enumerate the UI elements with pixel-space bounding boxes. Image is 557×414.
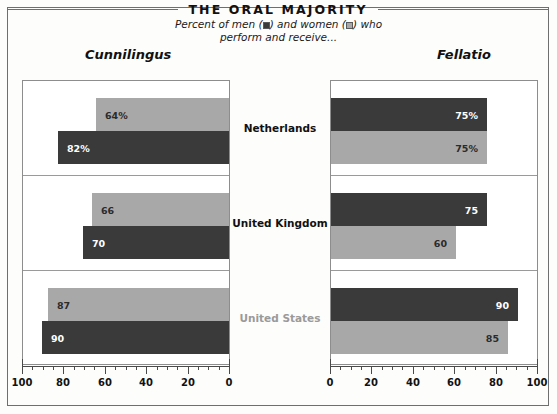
axis-ticklabel-fellatio-20: 20 bbox=[364, 377, 378, 388]
axis-cunnilingus bbox=[22, 366, 230, 374]
axis-ticklabel-fellatio-80: 80 bbox=[489, 377, 503, 388]
axis-tick bbox=[146, 366, 147, 374]
bar-label-men-netherlands: 75% bbox=[455, 109, 478, 120]
subtitle-text-after: ) who bbox=[353, 18, 382, 30]
axis-tick bbox=[413, 366, 414, 374]
subtitle-legend: Percent of men () and women () who perfo… bbox=[0, 18, 557, 44]
bar-label-men-united-states: 90 bbox=[51, 332, 64, 343]
axis-ticklabel-cunnilingus-40: 40 bbox=[139, 377, 153, 388]
axis-tick bbox=[177, 366, 178, 370]
axis-tick bbox=[167, 366, 168, 370]
axis-tick bbox=[371, 366, 372, 374]
axis-tick bbox=[340, 366, 341, 370]
bar-men-united-kingdom: 70 bbox=[83, 226, 229, 259]
subtitle-text-before-men: Percent of men ( bbox=[175, 18, 263, 30]
axis-tick bbox=[423, 366, 424, 370]
bar-men-united-states: 90 bbox=[331, 288, 518, 321]
axis-tick bbox=[157, 366, 158, 370]
axis-cap-start bbox=[330, 359, 331, 366]
axis-cap-end bbox=[537, 359, 538, 366]
panel-heading-fellatio: Fellatio bbox=[437, 47, 491, 62]
bar-label-men-netherlands: 82% bbox=[67, 142, 90, 153]
subtitle-line-1: Percent of men () and women () who bbox=[0, 18, 557, 31]
legend-men-swatch-icon bbox=[263, 22, 270, 29]
axis-tick bbox=[516, 366, 517, 370]
bar-label-women-netherlands: 64% bbox=[105, 109, 128, 120]
row-divider-1 bbox=[23, 175, 229, 176]
axis-tick bbox=[496, 366, 497, 374]
axis-tick bbox=[465, 366, 466, 370]
country-label-united-states: United States bbox=[232, 312, 328, 324]
axis-tick bbox=[22, 366, 23, 374]
row-divider-2 bbox=[23, 270, 229, 271]
axis-tick bbox=[537, 366, 538, 374]
bar-label-women-united-kingdom: 66 bbox=[101, 204, 114, 215]
axis-tick bbox=[444, 366, 445, 370]
bar-men-united-kingdom: 75 bbox=[331, 193, 487, 226]
axis-tick bbox=[506, 366, 507, 370]
title-band: THE ORAL MAJORITY bbox=[7, 0, 549, 18]
axis-tick bbox=[485, 366, 486, 370]
subtitle-text-mid: ) and women ( bbox=[270, 18, 346, 30]
axis-ticklabel-cunnilingus-80: 80 bbox=[56, 377, 70, 388]
axis-tick bbox=[527, 366, 528, 370]
axis-cap-end bbox=[229, 359, 230, 366]
axis-tick bbox=[382, 366, 383, 370]
plot-area-fellatio: 75% 75% 75 60 90 85 bbox=[330, 80, 538, 365]
axis-tick bbox=[94, 366, 95, 370]
axis-tick bbox=[115, 366, 116, 370]
axis-tick bbox=[32, 366, 33, 370]
axis-tick bbox=[219, 366, 220, 370]
bar-women-united-kingdom: 60 bbox=[331, 226, 456, 259]
axis-tick bbox=[351, 366, 352, 370]
bar-women-united-states: 87 bbox=[48, 288, 229, 321]
axis-ticklabel-fellatio-40: 40 bbox=[406, 377, 420, 388]
axis-fellatio bbox=[330, 366, 538, 374]
axis-tick bbox=[105, 366, 106, 374]
axis-tick bbox=[53, 366, 54, 370]
axis-tick bbox=[126, 366, 127, 370]
country-label-netherlands: Netherlands bbox=[232, 122, 328, 134]
axis-tick bbox=[74, 366, 75, 370]
row-divider-2 bbox=[331, 270, 537, 271]
axis-ticklabel-cunnilingus-20: 20 bbox=[181, 377, 195, 388]
infographic-page: THE ORAL MAJORITY Percent of men () and … bbox=[0, 0, 557, 414]
axis-tick bbox=[330, 366, 331, 374]
axis-tick bbox=[208, 366, 209, 370]
axis-tick bbox=[63, 366, 64, 374]
axis-tick bbox=[475, 366, 476, 370]
axis-ticklabel-fellatio-60: 60 bbox=[447, 377, 461, 388]
axis-tick bbox=[188, 366, 189, 374]
title-rule-left bbox=[7, 9, 178, 10]
axis-tick bbox=[402, 366, 403, 370]
axis-tick bbox=[198, 366, 199, 370]
bar-label-men-united-kingdom: 75 bbox=[465, 204, 478, 215]
axis-tick bbox=[136, 366, 137, 370]
bar-men-united-states: 90 bbox=[42, 321, 229, 354]
bar-label-women-netherlands: 75% bbox=[455, 142, 478, 153]
bar-label-women-united-states: 85 bbox=[486, 332, 499, 343]
row-divider-1 bbox=[331, 175, 537, 176]
axis-ticklabel-cunnilingus-60: 60 bbox=[98, 377, 112, 388]
axis-ticklabel-cunnilingus-100: 100 bbox=[12, 377, 33, 388]
axis-ticklabel-fellatio-0: 0 bbox=[327, 377, 334, 388]
axis-tick bbox=[392, 366, 393, 370]
axis-ticklabel-cunnilingus-0: 0 bbox=[226, 377, 233, 388]
country-label-united-kingdom: United Kingdom bbox=[232, 217, 328, 229]
bar-label-women-united-kingdom: 60 bbox=[434, 237, 447, 248]
bar-women-netherlands: 64% bbox=[96, 98, 229, 131]
axis-cap-start bbox=[22, 359, 23, 366]
axis-tick bbox=[361, 366, 362, 370]
bar-label-men-united-states: 90 bbox=[496, 299, 509, 310]
bar-women-netherlands: 75% bbox=[331, 131, 487, 164]
axis-tick bbox=[454, 366, 455, 374]
subtitle-line-2: perform and receive... bbox=[0, 31, 557, 44]
panel-heading-cunnilingus: Cunnilingus bbox=[85, 47, 171, 62]
bar-label-women-united-states: 87 bbox=[57, 299, 70, 310]
bar-women-united-kingdom: 66 bbox=[92, 193, 229, 226]
axis-tick bbox=[43, 366, 44, 370]
bar-men-netherlands: 75% bbox=[331, 98, 487, 131]
plot-area-cunnilingus: 64% 82% 66 70 87 90 bbox=[22, 80, 230, 365]
legend-women-swatch-icon bbox=[346, 22, 353, 29]
axis-tick bbox=[434, 366, 435, 370]
